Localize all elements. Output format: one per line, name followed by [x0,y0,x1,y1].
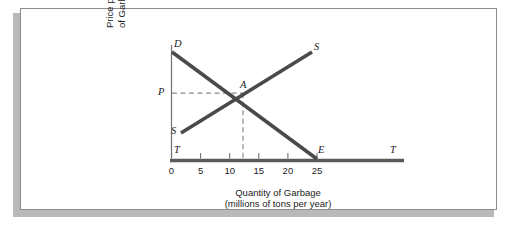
demand-intercept-label: E [318,145,324,156]
x-axis-title-line2: (millions of tons per year) [225,199,332,209]
y-axis-title: Price per Ton per Year of Garbage Remove… [104,0,138,28]
supply-curve-lower-label: S [171,126,176,137]
x-tick-label-15: 15 [254,166,265,176]
origin-axis-label: T [174,145,180,156]
equilibrium-price-label: P [158,87,164,98]
y-axis-title-line1: Price per Ton per Year [104,0,116,28]
x-axis-title-line1: Quantity of Garbage [235,188,321,198]
demand-curve-label: D [174,39,182,50]
x-tick-label-5: 5 [198,166,203,176]
supply-curve-upper-label: S [314,42,319,53]
figure-plate [20,8,497,210]
x-tick-label-10: 10 [224,166,235,176]
x-tick-label-25: 25 [312,166,323,176]
right-axis-label: T [390,145,396,156]
x-tick-label-20: 20 [283,166,294,176]
equilibrium-point-label: A [240,80,246,91]
y-axis-title-line2: of Garbage Removed [116,0,128,28]
x-tick-label-0: 0 [169,166,174,176]
